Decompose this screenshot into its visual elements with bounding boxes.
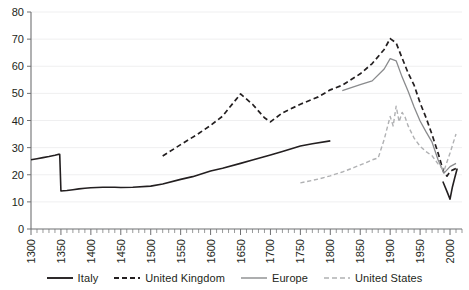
x-axis-tick-label: 1450: [115, 239, 127, 263]
x-axis-tick-label: 1800: [324, 239, 336, 263]
y-axis-tick-label: 10: [12, 196, 24, 208]
x-axis-tick-label: 1850: [354, 239, 366, 263]
y-axis-tick-label: 70: [12, 33, 24, 45]
legend-swatch-united-kingdom: [114, 273, 140, 283]
x-axis-tick-label: 1650: [235, 239, 247, 263]
legend-swatch-united-states: [324, 273, 350, 283]
legend-label-united-kingdom: United Kingdom: [145, 272, 225, 284]
legend-item-united-states[interactable]: United States: [324, 272, 422, 284]
y-axis-tick-label: 0: [18, 223, 24, 235]
legend-label-italy: Italy: [78, 272, 99, 284]
series-line-italy: [443, 169, 457, 200]
chart-figure: 01020304050607080 1300135014001450150015…: [0, 0, 469, 290]
y-axis-labels-group: 01020304050607080: [12, 6, 24, 235]
y-axis-tick-label: 60: [12, 60, 24, 72]
chart-legend: Italy United Kingdom Europe United State…: [0, 272, 469, 284]
x-axis-tick-label: 1300: [25, 239, 37, 263]
legend-item-europe[interactable]: Europe: [241, 272, 308, 284]
x-axis-tick-label: 1550: [175, 239, 187, 263]
line-chart-plot: 01020304050607080 1300135014001450150015…: [0, 0, 469, 290]
y-axis-ticks-group: [27, 12, 31, 229]
series-line-italy: [31, 141, 330, 191]
x-axis-tick-label: 1900: [384, 239, 396, 263]
y-axis-tick-label: 80: [12, 6, 24, 18]
x-axis-labels-group: 1300135014001450150015501600165017001750…: [25, 239, 456, 263]
y-axis-tick-label: 30: [12, 142, 24, 154]
legend-swatch-italy: [47, 273, 73, 283]
x-axis-tick-label: 1950: [414, 239, 426, 263]
x-axis-tick-label: 1600: [205, 239, 217, 263]
x-axis-tick-label: 1400: [85, 239, 97, 263]
legend-swatch-europe: [241, 273, 267, 283]
x-axis-tick-label: 1350: [55, 239, 67, 263]
y-axis-tick-label: 50: [12, 87, 24, 99]
x-axis-tick-label: 2000: [444, 239, 456, 263]
x-axis-tick-label: 1700: [264, 239, 276, 263]
x-axis-tick-label: 1500: [145, 239, 157, 263]
x-axis-ticks-group: [31, 229, 462, 235]
y-axis-tick-label: 40: [12, 115, 24, 127]
gridlines-group: [31, 12, 462, 202]
legend-item-united-kingdom[interactable]: United Kingdom: [114, 272, 225, 284]
series-line-united-kingdom: [163, 39, 456, 177]
x-axis-tick-label: 1750: [294, 239, 306, 263]
y-axis-tick-label: 20: [12, 169, 24, 181]
legend-label-united-states: United States: [355, 272, 422, 284]
legend-item-italy[interactable]: Italy: [47, 272, 99, 284]
legend-label-europe: Europe: [272, 272, 308, 284]
